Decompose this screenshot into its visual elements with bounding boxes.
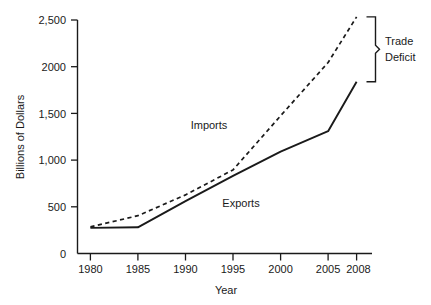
x-tick-label-2008: 2008 [346,263,370,275]
x-tick-label-2000: 2000 [268,263,292,275]
trade-deficit-label-line1: Trade [385,35,413,47]
chart-canvas: 2,500 2000 1,500 1,000 500 0 1980 1985 1… [0,0,431,305]
trade-deficit-bracket-shape [367,17,380,82]
y-tick-label-1500: 1,500 [38,108,66,120]
axes-group [78,20,373,254]
trade-deficit-line-chart-figure: 2,500 2000 1,500 1,000 500 0 1980 1985 1… [0,0,431,305]
x-tick-label-1985: 1985 [126,263,150,275]
x-tick-label-1990: 1990 [173,263,197,275]
y-tick-marks [71,20,78,207]
x-tick-label-1995: 1995 [221,263,245,275]
x-tick-label-1980: 1980 [78,263,102,275]
y-tick-label-2000: 2000 [42,61,66,73]
y-tick-label-1000: 1,000 [38,154,66,166]
y-tick-label-500: 500 [48,201,66,213]
imports-series-label: Imports [191,119,228,131]
x-axis-title: Year [215,284,238,296]
y-tick-label-0: 0 [60,248,66,260]
y-tick-label-2500: 2,500 [38,14,66,26]
exports-series-label: Exports [222,197,260,209]
x-tick-marks [90,254,356,261]
y-tick-labels: 2,500 2000 1,500 1,000 500 0 [38,14,66,260]
trade-deficit-bracket: Trade Deficit [367,17,416,82]
trade-deficit-label-line2: Deficit [385,51,416,63]
x-tick-label-2005: 2005 [316,263,340,275]
x-tick-labels: 1980 1985 1990 1995 2000 2005 2008 [78,263,371,275]
y-axis-title: Billions of Dollars [14,94,26,179]
